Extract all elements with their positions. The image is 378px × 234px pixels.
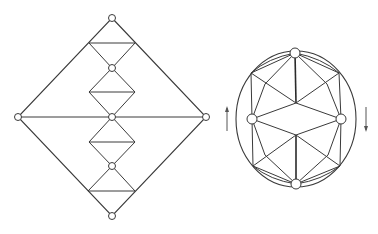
node-lower <box>109 163 116 170</box>
edge <box>251 73 296 103</box>
edge <box>251 73 252 119</box>
node-right <box>336 114 346 124</box>
edge <box>252 119 253 166</box>
node-bottom <box>291 179 301 189</box>
node-right <box>203 114 210 121</box>
right-graph <box>225 48 368 189</box>
arrow-up-icon <box>225 106 229 131</box>
edge <box>295 53 339 73</box>
edge <box>112 43 135 68</box>
edge <box>252 84 265 119</box>
edge <box>89 43 112 68</box>
edge <box>252 119 265 155</box>
figure-canvas <box>0 0 378 234</box>
node-top <box>109 15 116 22</box>
edge <box>328 119 341 155</box>
edge <box>265 155 296 184</box>
edge <box>340 119 341 166</box>
node-left <box>247 114 257 124</box>
edge <box>253 166 296 184</box>
edge <box>339 73 341 119</box>
left-graph <box>15 15 210 220</box>
central-rhombus <box>252 103 341 135</box>
node-upper <box>109 65 116 72</box>
edge <box>88 166 112 191</box>
arrow-down-icon <box>364 107 368 132</box>
node-bottom <box>109 213 116 220</box>
node-center <box>109 114 116 121</box>
node-top <box>290 48 300 58</box>
edge <box>296 166 340 184</box>
spine-upper <box>295 53 296 103</box>
edge <box>112 166 135 191</box>
edge <box>327 84 341 119</box>
node-left <box>15 114 22 121</box>
